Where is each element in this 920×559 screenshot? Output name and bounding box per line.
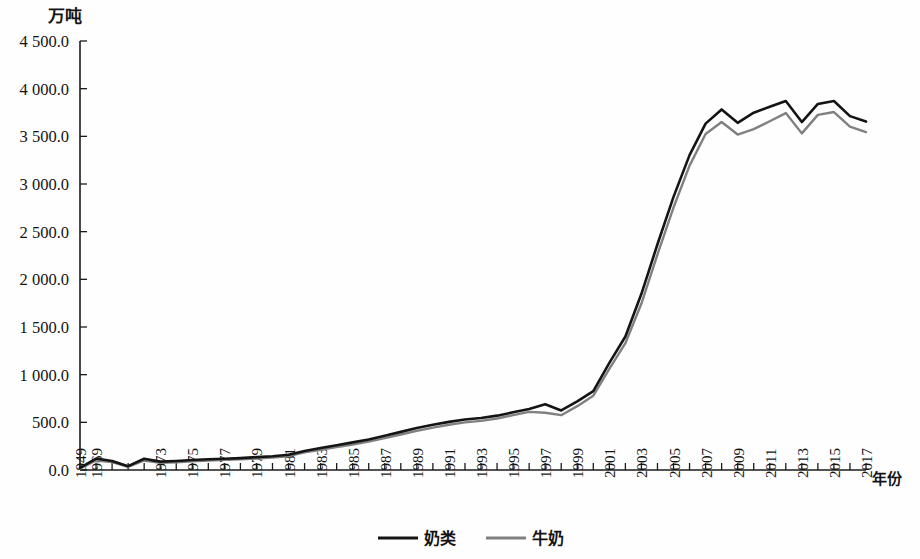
y-axis-tick-label: 0.0 — [48, 461, 69, 480]
y-axis-tick-label: 1 000.0 — [20, 366, 70, 385]
series-line-nailei — [80, 101, 866, 468]
y-axis-tick-label: 2 000.0 — [20, 270, 70, 289]
x-axis-tick-label: 1985 — [346, 448, 362, 478]
chart-container: 万吨 0.0500.01 000.01 500.02 000.02 500.03… — [0, 0, 920, 559]
y-axis-unit-label: 万吨 — [47, 6, 82, 26]
x-axis-tick-label: 2001 — [602, 448, 618, 478]
y-axis-unit-group: 万吨 — [47, 6, 82, 26]
x-axis-tick-label: 2009 — [731, 448, 747, 478]
axis-lines — [80, 41, 866, 470]
x-axis-tick-label: 1979 — [249, 448, 265, 478]
legend-label: 牛奶 — [532, 529, 564, 548]
line-chart: 万吨 0.0500.01 000.01 500.02 000.02 500.03… — [0, 0, 920, 559]
y-axis-tickmarks — [80, 41, 87, 470]
x-axis-tick-label: 2005 — [667, 448, 683, 478]
y-axis-tick-label: 2 500.0 — [20, 223, 70, 242]
y-axis-tick-labels: 0.0500.01 000.01 500.02 000.02 500.03 00… — [20, 32, 70, 480]
x-axis-tick-label: 2013 — [795, 448, 811, 478]
x-axis-tick-label: 1999 — [570, 448, 586, 478]
y-axis-tick-label: 3 500.0 — [20, 127, 70, 146]
x-axis-tick-label: 1997 — [538, 448, 554, 479]
y-axis-tick-label: 1 500.0 — [20, 318, 70, 337]
x-axis-tick-label: 2003 — [634, 448, 650, 478]
x-axis-tick-label: 1993 — [474, 448, 490, 478]
x-axis-tick-label: 2011 — [763, 449, 779, 478]
x-axis-tick-label: 1977 — [217, 448, 233, 479]
chart-legend: 奶类牛奶 — [378, 529, 564, 548]
x-axis-tick-label: 2007 — [699, 448, 715, 479]
y-axis-tick-label: 4 500.0 — [20, 32, 70, 51]
legend-label: 奶类 — [424, 529, 457, 548]
x-axis-tick-label: 1991 — [442, 448, 458, 478]
data-series-group — [80, 101, 866, 469]
x-axis-unit-label: 年份 — [872, 470, 903, 488]
y-axis-tick-label: 4 000.0 — [20, 80, 70, 99]
series-line-niunai — [80, 112, 866, 469]
x-axis-tick-labels: 1949196919731975197719791981198319851987… — [73, 448, 875, 479]
x-axis-tick-label: 1975 — [185, 448, 201, 478]
x-axis-tick-label: 1983 — [314, 448, 330, 478]
x-axis-tick-label: 1989 — [410, 448, 426, 478]
y-axis-tick-label: 500.0 — [32, 413, 69, 432]
x-axis-tick-label: 1995 — [506, 448, 522, 478]
x-axis-unit-group: 年份 — [872, 470, 903, 488]
y-axis-tick-label: 3 000.0 — [20, 175, 70, 194]
x-axis-tick-label: 2015 — [827, 448, 843, 478]
x-axis-tick-label: 1987 — [378, 448, 394, 479]
